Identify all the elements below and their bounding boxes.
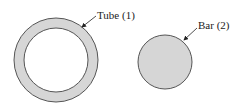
bar-label: Bar (2) [198,19,230,32]
tube-cross-section [14,18,98,102]
bar-leader-arrow [184,28,197,40]
tube-label: Tube (1) [97,9,135,22]
diagram-svg: Tube (1) Bar (2) [0,0,242,108]
cross-section-diagram: Tube (1) Bar (2) [0,0,242,108]
tube-leader-arrow [82,16,96,27]
bar-cross-section [138,35,192,89]
